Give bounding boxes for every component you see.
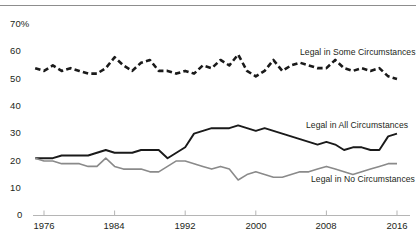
y-tick-label-70: 70% xyxy=(10,19,29,29)
y-tick-label-30: 30 xyxy=(10,128,21,138)
y-tick-label-0: 0 xyxy=(17,210,22,220)
y-tick-label-10: 10 xyxy=(10,183,21,193)
x-tick-label-2000: 2000 xyxy=(239,221,273,231)
x-tick-label-1992: 1992 xyxy=(168,221,202,231)
y-tick-label-40: 40 xyxy=(10,101,21,111)
x-tick-label-1976: 1976 xyxy=(27,221,61,231)
x-tick-label-2008: 2008 xyxy=(309,221,343,231)
x-tick-label-2016: 2016 xyxy=(380,221,414,231)
y-tick-label-50: 50 xyxy=(10,74,21,84)
series-label-legal-in-all-circumstances: Legal in All Circumstances xyxy=(306,120,408,130)
series-path-legal-in-some-circumstances xyxy=(35,55,397,80)
y-tick-label-60: 60 xyxy=(10,46,21,56)
chart-plot-area xyxy=(0,0,416,236)
series-path-legal-in-all-circumstances xyxy=(35,125,397,158)
series-label-legal-in-some-circumstances: Legal in Some Circumstances xyxy=(300,47,416,57)
x-tick-label-1984: 1984 xyxy=(97,221,131,231)
series-paths xyxy=(35,55,397,181)
y-tick-label-20: 20 xyxy=(10,156,21,166)
series-label-legal-in-no-circumstances: Legal in No Circumstances xyxy=(311,174,415,184)
x-axis-ticks xyxy=(44,211,397,216)
chart-container: 70% 60 50 40 30 20 10 0 1976 1984 1992 2… xyxy=(0,0,416,236)
